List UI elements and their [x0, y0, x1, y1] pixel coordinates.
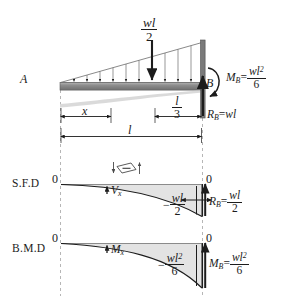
- sfd-ordinate-symbol: V: [111, 184, 118, 196]
- sfd-reaction-den: 2: [227, 203, 242, 215]
- bmd-peak-label: −wl26: [158, 252, 184, 277]
- figure-canvas: wl 2 A B MB=wl26 RB=wl x l 3 l S.F.D 0 0…: [0, 0, 286, 302]
- bmd-moment-den: 6: [230, 265, 249, 277]
- bmd-peak-sign: −: [158, 258, 165, 272]
- dimension-third-den: 3: [172, 108, 182, 120]
- load-resultant-numerator: wl: [141, 16, 157, 30]
- moment-reaction-label: MB=wl26: [226, 66, 266, 91]
- vertical-reaction-label: RB=wl: [207, 108, 236, 122]
- beam-member: [60, 83, 202, 91]
- bmd-moment-symbol: M: [209, 257, 219, 269]
- sfd-reaction-num: wl: [227, 190, 242, 203]
- sfd-peak-num: wl: [170, 192, 185, 205]
- sfd-reaction-label: RB=wl2: [209, 190, 242, 214]
- sfd-peak-sign: −: [163, 198, 170, 212]
- bmd-moment-num: wl: [232, 251, 243, 263]
- sfd-peak-label: −wl2: [163, 192, 185, 217]
- bmd-moment-label: MB=wl26: [209, 252, 249, 277]
- sfd-ordinate-label: Vx: [111, 184, 122, 198]
- bmd-peak-den: 6: [165, 265, 184, 277]
- shear-force-diagram: [61, 162, 211, 217]
- moment-reaction-den: 6: [247, 79, 266, 91]
- sign-convention-symbol: [114, 162, 140, 174]
- sfd-reaction-symbol: R: [209, 195, 216, 207]
- bmd-peak-num-exp: 2: [178, 252, 182, 261]
- bmd-moment-num-exp: 2: [243, 251, 247, 260]
- moment-reaction-symbol: M: [226, 71, 236, 83]
- bmd-peak-num: wl: [167, 251, 178, 265]
- sfd-peak-den: 2: [170, 205, 185, 217]
- bmd-zero-left: 0: [52, 231, 58, 246]
- distributed-load: [61, 43, 203, 83]
- vertical-reaction-value: wl: [225, 108, 236, 120]
- bmd-ordinate-label: Mx: [111, 243, 124, 257]
- bmd-title: B.M.D: [12, 242, 45, 254]
- moment-reaction-num: wl: [249, 65, 260, 77]
- bmd-zero-right: 0: [206, 231, 212, 246]
- sfd-zero-left: 0: [52, 172, 58, 187]
- fixed-end-label-b: B: [206, 76, 213, 91]
- dimension-span-label: l: [128, 123, 131, 138]
- free-end-label-a: A: [20, 72, 27, 87]
- dimension-third-label: l 3: [172, 95, 182, 120]
- dimension-third-num: l: [172, 95, 182, 108]
- dimension-x-label: x: [82, 104, 87, 119]
- load-resultant-denominator: 2: [141, 30, 157, 43]
- vertical-reaction-symbol: R: [207, 108, 214, 120]
- sfd-zero-right: 0: [206, 172, 212, 187]
- sfd-ordinate-subscript: x: [118, 189, 121, 198]
- bmd-ordinate-subscript: x: [121, 248, 124, 257]
- moment-reaction-num-exp: 2: [260, 65, 264, 74]
- sfd-title: S.F.D: [12, 177, 39, 189]
- load-resultant-label: wl 2: [141, 16, 157, 44]
- bmd-ordinate-symbol: M: [111, 243, 121, 255]
